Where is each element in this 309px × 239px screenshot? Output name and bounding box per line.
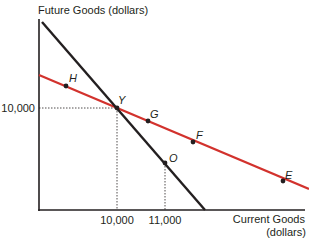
point-F-dot xyxy=(191,140,196,145)
y-tick-10000: 10,000 xyxy=(1,102,35,114)
black-budget-line xyxy=(42,22,205,210)
point-Y-dot xyxy=(115,106,120,111)
point-Y-label: Y xyxy=(118,94,126,106)
x-tick-10000: 10,000 xyxy=(100,214,134,226)
point-O-dot xyxy=(163,161,168,166)
axes xyxy=(38,19,305,211)
point-H-dot xyxy=(64,84,69,89)
point-O-label: O xyxy=(169,152,178,164)
point-F-label: F xyxy=(196,129,204,141)
point-E-label: E xyxy=(285,169,293,181)
y-axis-title: Future Goods (dollars) xyxy=(38,4,148,16)
guide-lines xyxy=(39,108,165,210)
chart: Future Goods (dollars) Current Goods (do… xyxy=(0,0,309,239)
point-H-label: H xyxy=(69,72,77,84)
point-G-label: G xyxy=(150,108,159,120)
red-budget-line xyxy=(39,75,309,189)
x-tick-11000: 11,000 xyxy=(149,214,182,226)
x-axis-title-line2: (dollars) xyxy=(266,226,306,238)
x-axis-title-line1: Current Goods xyxy=(233,213,306,225)
